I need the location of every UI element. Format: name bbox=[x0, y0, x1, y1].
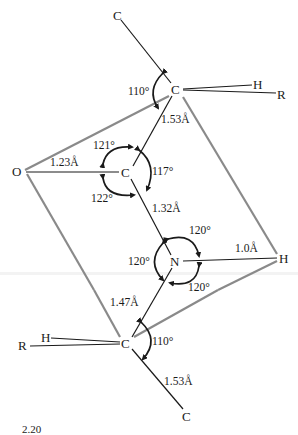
angle-lower-calpha: 110° bbox=[152, 336, 173, 348]
angle-n-bottom: 120° bbox=[188, 282, 210, 294]
atom-c-alpha-lower: C bbox=[121, 337, 130, 350]
figure-caption-fragment: 2.20 bbox=[22, 424, 41, 435]
angle-n-left: 120° bbox=[128, 256, 150, 268]
atom-c-alpha-upper: C bbox=[171, 83, 180, 96]
atom-r-lower: R bbox=[18, 339, 27, 352]
atom-n: N bbox=[170, 255, 179, 268]
atom-h-upper: H bbox=[253, 78, 262, 91]
atom-o: O bbox=[12, 165, 21, 178]
atom-h-amide: H bbox=[279, 252, 288, 265]
angle-carbonyl-right: 117° bbox=[152, 166, 173, 178]
bond-length-n-h: 1.0Å bbox=[235, 243, 258, 255]
bond-length-calpha-c: 1.53Å bbox=[161, 114, 189, 126]
atom-c-top: C bbox=[113, 9, 122, 22]
atom-c-bottom: C bbox=[182, 410, 191, 423]
bond-calpha-h bbox=[183, 85, 252, 89]
bonds bbox=[26, 20, 277, 409]
bond-length-c-n: 1.32Å bbox=[152, 203, 180, 215]
angle-carbonyl-bottom: 122° bbox=[91, 193, 113, 205]
bond-n-h bbox=[183, 258, 277, 261]
atom-r-upper: R bbox=[277, 88, 286, 101]
bond-length-c-o: 1.23Å bbox=[50, 157, 78, 169]
angle-n-top: 120° bbox=[189, 225, 211, 237]
bond-c-n bbox=[131, 179, 171, 255]
bond-length-calpha-cbottom: 1.53Å bbox=[164, 376, 192, 388]
bond-calpha-h-lower bbox=[51, 338, 120, 342]
angle-upper-calpha: 110° bbox=[128, 86, 149, 98]
angle-carbonyl-top: 121° bbox=[93, 140, 115, 152]
atom-h-lower: H bbox=[41, 331, 50, 344]
bond-calpha-c bbox=[133, 96, 172, 166]
bond-length-n-calpha: 1.47Å bbox=[110, 297, 138, 309]
atom-c-carbonyl: C bbox=[121, 166, 130, 179]
